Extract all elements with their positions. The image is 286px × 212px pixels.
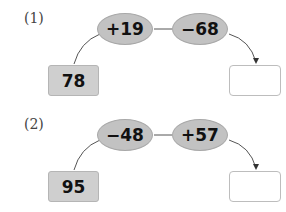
start-number-box: 95 xyxy=(48,171,99,202)
problem-label: (2) xyxy=(24,116,44,132)
operation-oval-2: −68 xyxy=(172,13,228,45)
operation-oval-1: +19 xyxy=(97,13,153,45)
problem-2: (2) −48 +57 95 xyxy=(0,106,286,212)
operation-oval-1: −48 xyxy=(97,119,153,151)
problem-1: (1) +19 −68 78 xyxy=(0,0,286,106)
answer-box[interactable] xyxy=(229,65,281,96)
start-number-box: 78 xyxy=(48,65,99,96)
operation-oval-2: +57 xyxy=(172,119,228,151)
answer-box[interactable] xyxy=(229,171,281,202)
problem-label: (1) xyxy=(24,10,44,26)
